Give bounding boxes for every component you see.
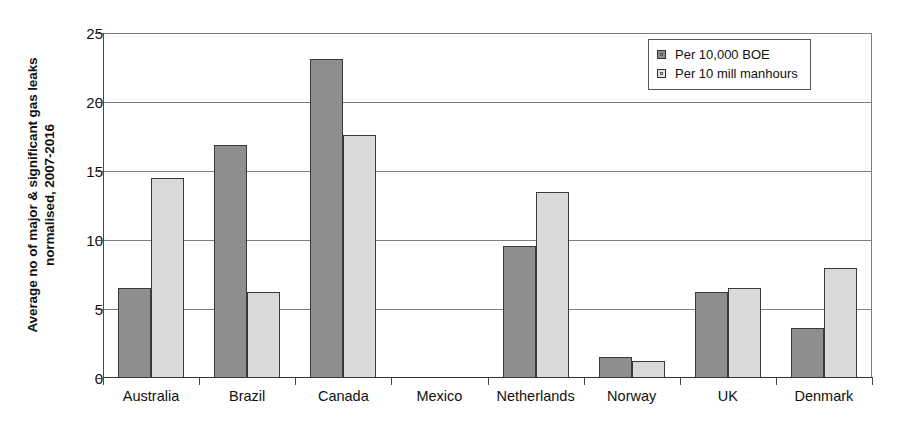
bar	[343, 135, 376, 378]
y-tick-mark	[95, 171, 103, 172]
y-tick-label: 0	[33, 370, 103, 387]
bar	[791, 328, 824, 378]
x-tick-mark	[872, 377, 873, 385]
x-tick-mark	[776, 377, 777, 385]
bar-chart: Average no of major & significant gas le…	[0, 0, 898, 426]
legend-label-1: Per 10 mill manhours	[675, 66, 798, 81]
bar	[536, 192, 569, 378]
x-tick-mark	[584, 377, 585, 385]
bar	[728, 288, 761, 378]
bar	[695, 292, 728, 378]
x-tick-label: Canada	[318, 388, 369, 404]
bar	[632, 361, 665, 378]
y-tick-mark	[95, 240, 103, 241]
bar	[151, 178, 184, 378]
bar	[599, 357, 632, 378]
x-tick-mark	[488, 377, 489, 385]
x-tick-mark	[295, 377, 296, 385]
legend-label-0: Per 10,000 BOE	[675, 47, 770, 62]
y-tick-label: 10	[33, 232, 103, 249]
x-tick-label: Denmark	[795, 388, 854, 404]
y-tick-label: 15	[33, 163, 103, 180]
y-tick-mark	[95, 309, 103, 310]
x-tick-label: Australia	[123, 388, 179, 404]
bar	[247, 292, 280, 378]
bar	[310, 59, 343, 378]
x-tick-mark	[680, 377, 681, 385]
y-tick-mark	[95, 102, 103, 103]
y-tick-mark	[95, 378, 103, 379]
x-tick-mark	[103, 377, 104, 385]
x-tick-mark	[391, 377, 392, 385]
y-tick-label: 20	[33, 94, 103, 111]
y-axis: 0510152025	[0, 0, 103, 426]
y-tick-mark	[95, 33, 103, 34]
bar	[503, 246, 536, 378]
x-tick-label: Brazil	[229, 388, 265, 404]
bar	[824, 268, 857, 378]
legend-item-0: Per 10,000 BOE	[657, 45, 798, 64]
legend-item-1: Per 10 mill manhours	[657, 64, 798, 83]
legend-swatch-icon-per-10-mill-manhours	[657, 69, 666, 78]
y-tick-label: 5	[33, 301, 103, 318]
legend: Per 10,000 BOE Per 10 mill manhours	[648, 39, 811, 90]
y-tick-label: 25	[33, 25, 103, 42]
x-tick-label: UK	[718, 388, 738, 404]
bar	[214, 145, 247, 378]
bar	[118, 288, 151, 378]
x-tick-label: Norway	[607, 388, 656, 404]
x-tick-label: Netherlands	[496, 388, 574, 404]
x-tick-mark	[199, 377, 200, 385]
x-axis-labels: AustraliaBrazilCanadaMexicoNetherlandsNo…	[103, 388, 872, 412]
x-tick-label: Mexico	[416, 388, 462, 404]
legend-swatch-icon-per-10000-boe	[657, 50, 666, 59]
